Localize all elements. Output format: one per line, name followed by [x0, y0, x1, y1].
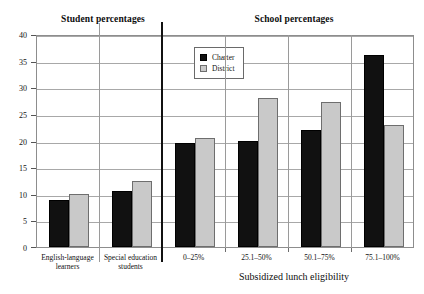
x-tick-label-line: Special education — [99, 253, 162, 262]
y-tick-label: 25 — [19, 110, 27, 119]
bar-charter — [364, 55, 384, 247]
x-axis-title: Subsidized lunch eligibility — [173, 271, 415, 282]
bar-district — [132, 181, 152, 247]
x-tick-label: 75.1–100% — [351, 253, 414, 262]
y-tick-label: 40 — [19, 31, 27, 40]
x-tick-mark — [288, 248, 289, 252]
x-tick-label: Special educationstudents — [99, 253, 162, 271]
bar-charter — [175, 143, 195, 247]
x-tick-label-line: 75.1–100% — [351, 253, 414, 262]
x-tick-label-line: 25.1–50% — [225, 253, 288, 262]
x-tick-label: 0–25% — [162, 253, 225, 262]
y-tick-label: 10 — [19, 190, 27, 199]
chart-legend: Charter District — [194, 47, 244, 79]
y-tick-label: 5 — [23, 217, 27, 226]
category-divider — [99, 23, 100, 262]
section-title-school-percentages: School percentages — [173, 14, 415, 24]
bar-district — [384, 125, 404, 247]
y-tick-label: 20 — [19, 137, 27, 146]
x-tick-label-line: 0–25% — [162, 253, 225, 262]
x-tick-label: English-languagelearners — [36, 253, 99, 271]
x-tick-label: 25.1–50% — [225, 253, 288, 262]
bar-district — [69, 194, 89, 247]
x-tick-label-line: students — [99, 262, 162, 271]
x-tick-label-line: English-language — [36, 253, 99, 262]
category-divider — [288, 35, 289, 248]
bar-charter — [49, 200, 69, 247]
bar-charter — [238, 141, 258, 248]
y-axis: 0510152025303540 — [0, 35, 36, 248]
x-tick-label-line: learners — [36, 262, 99, 271]
section-title-student-percentages: Student percentages — [34, 14, 172, 24]
category-divider — [225, 35, 226, 248]
bar-district — [321, 102, 341, 247]
x-tick-label-line: 50.1–75% — [288, 253, 351, 262]
legend-item-charter: Charter — [200, 52, 235, 63]
bar-district — [195, 138, 215, 247]
y-tick-label: 0 — [23, 244, 27, 253]
bar-charter — [301, 130, 321, 247]
legend-label-district: District — [212, 64, 235, 73]
bar-charter — [112, 191, 132, 247]
category-divider — [351, 35, 352, 248]
y-tick-label: 30 — [19, 84, 27, 93]
panel-divider — [161, 22, 163, 262]
y-tick-label: 15 — [19, 164, 27, 173]
bar-district — [258, 98, 278, 247]
x-tick-mark — [225, 248, 226, 252]
legend-label-charter: Charter — [212, 53, 235, 62]
x-tick-label: 50.1–75% — [288, 253, 351, 262]
chart-figure: Student percentages School percentages 0… — [0, 0, 424, 294]
x-tick-mark — [351, 248, 352, 252]
legend-item-district: District — [200, 63, 235, 74]
legend-swatch-charter-icon — [200, 54, 207, 61]
y-tick-label: 35 — [19, 57, 27, 66]
legend-swatch-district-icon — [200, 65, 207, 72]
